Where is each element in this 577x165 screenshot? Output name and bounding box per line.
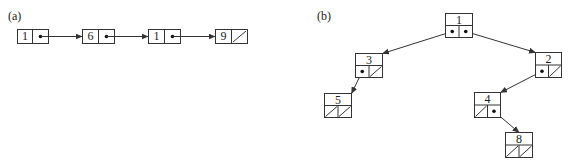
child-arrow	[383, 32, 453, 54]
diagram-canvas: (a) 1619 (b) 132548	[0, 0, 577, 165]
node-value: 5	[335, 93, 341, 107]
tree-node-4: 4	[475, 92, 501, 118]
list-node: 9	[216, 29, 248, 44]
child-arrow	[466, 32, 536, 53]
panel-a-label: (a)	[8, 9, 21, 23]
pointer-dot-icon	[540, 69, 544, 73]
pointer-dot-icon	[464, 30, 468, 34]
node-value: 8	[516, 132, 522, 146]
node-value: 4	[485, 92, 491, 106]
node-value: 1	[22, 29, 28, 43]
tree-node-3: 3	[356, 53, 383, 78]
node-value: 2	[546, 52, 552, 66]
list-node: 1	[149, 29, 216, 44]
tree-node-5: 5	[325, 93, 352, 118]
tree-node-1: 1	[446, 13, 473, 38]
list-node: 1	[18, 29, 83, 44]
tree-node-8: 8	[506, 132, 533, 158]
node-value: 1	[456, 13, 462, 27]
pointer-dot-icon	[450, 30, 454, 34]
tree-node-2: 2	[536, 52, 562, 78]
panel-b-binary-tree: (b) 132548	[317, 9, 562, 158]
node-value: 1	[154, 29, 160, 43]
pointer-dot-icon	[360, 70, 364, 74]
panel-b-label: (b)	[317, 9, 331, 23]
panel-a-linked-list: (a) 1619	[8, 9, 248, 44]
list-node: 6	[83, 29, 149, 44]
pointer-dot-icon	[492, 109, 496, 113]
node-value: 9	[221, 29, 227, 43]
node-value: 6	[88, 29, 94, 43]
node-value: 3	[366, 53, 372, 67]
tree-edges	[352, 32, 543, 133]
